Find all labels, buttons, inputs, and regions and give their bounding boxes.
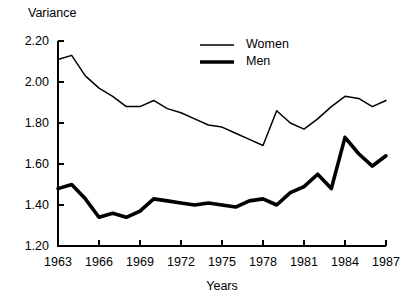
y-tick-label: 1.80 xyxy=(25,116,49,130)
x-tick-label: 1987 xyxy=(372,255,400,269)
chart-canvas: Variance 2.202.001.801.601.401.20 196319… xyxy=(0,0,409,306)
x-tick-label: 1978 xyxy=(249,255,277,269)
y-tick-label: 2.20 xyxy=(25,34,49,48)
y-tick-label: 1.20 xyxy=(25,239,49,253)
y-axis-title: Variance xyxy=(28,6,76,20)
x-tick-label: 1984 xyxy=(331,255,359,269)
x-axis-title: Years xyxy=(206,279,238,293)
series-line-men xyxy=(58,137,386,217)
x-tick-label: 1966 xyxy=(85,255,113,269)
x-axis-tick-labels: 196319661969197219751978198119841987 xyxy=(44,255,400,269)
variance-line-chart: Variance 2.202.001.801.601.401.20 196319… xyxy=(0,0,409,306)
chart-legend: Women Men xyxy=(200,37,289,68)
x-tick-label: 1963 xyxy=(44,255,72,269)
x-tick-label: 1981 xyxy=(290,255,318,269)
legend-label-men: Men xyxy=(246,54,270,68)
x-tick-label: 1975 xyxy=(208,255,236,269)
x-tick-label: 1969 xyxy=(126,255,154,269)
y-axis-tick-labels: 2.202.001.801.601.401.20 xyxy=(25,34,49,253)
x-tick-label: 1972 xyxy=(167,255,195,269)
y-tick-label: 2.00 xyxy=(25,75,49,89)
series-line-women xyxy=(58,55,386,145)
y-tick-label: 1.60 xyxy=(25,157,49,171)
legend-label-women: Women xyxy=(246,37,289,51)
y-tick-label: 1.40 xyxy=(25,198,49,212)
